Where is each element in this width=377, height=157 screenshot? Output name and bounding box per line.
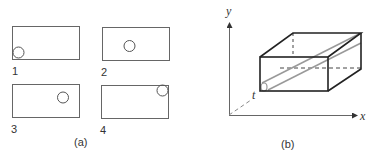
disk-icon — [13, 47, 24, 58]
t-axis-label: t — [252, 88, 256, 102]
frame-label-2: 2 — [101, 66, 107, 78]
frame-1: 1 — [12, 27, 80, 78]
caption-b: (b) — [281, 138, 294, 150]
disk-icon — [124, 41, 135, 52]
frame-label-3: 3 — [11, 123, 17, 135]
disk-icon — [58, 92, 69, 103]
frame-4: 4 — [100, 85, 169, 136]
frame-2: 2 — [101, 28, 170, 79]
caption-a: (a) — [74, 136, 87, 148]
y-axis-label: y — [225, 4, 232, 18]
frame-label-1: 1 — [12, 65, 18, 77]
swept-tube — [261, 34, 361, 91]
frame-3: 3 — [11, 85, 80, 136]
x-axis-label: x — [359, 109, 366, 123]
panel-a: 1 2 3 4 (a) — [11, 27, 170, 149]
frame-label-4: 4 — [100, 124, 106, 136]
figure: 1 2 3 4 (a) y x t — [0, 0, 377, 157]
disk-icon — [157, 85, 168, 96]
volume-box — [260, 33, 361, 91]
t-axis — [229, 100, 251, 115]
panel-b: y x t (b) — [225, 4, 366, 150]
